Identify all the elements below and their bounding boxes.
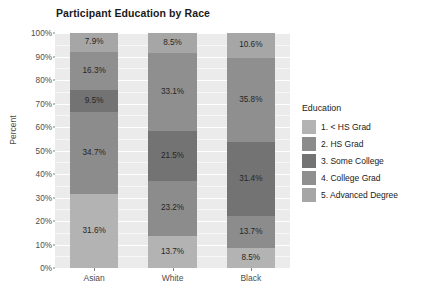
- x-axis-tick-label-asian: Asian: [84, 273, 105, 283]
- legend-item-label: 5. Advanced Degree: [321, 190, 398, 200]
- bar-segment-label: 31.4%: [239, 175, 262, 183]
- legend: Education 1. < HS Grad2. HS Grad3. Some …: [302, 103, 398, 203]
- legend-swatch-icon: [302, 154, 316, 168]
- legend-item[interactable]: 1. < HS Grad: [302, 118, 398, 135]
- chart-container: Participant Education by Race Percent 0%…: [0, 0, 428, 306]
- bar-segment-label: 13.7%: [161, 248, 184, 256]
- legend-item[interactable]: 4. College Grad: [302, 169, 398, 186]
- legend-item[interactable]: 2. HS Grad: [302, 135, 398, 152]
- bar-segment-label: 8.5%: [163, 39, 182, 47]
- bar-segment[interactable]: 8.5%: [227, 248, 276, 268]
- x-axis-tick-mark: [173, 268, 174, 271]
- plot-panel: 31.6%34.7%9.5%16.3%7.9%13.7%23.2%21.5%33…: [55, 33, 290, 268]
- y-axis-tick-labels: 0%10%20%30%40%50%60%70%80%90%100%: [22, 33, 52, 268]
- legend-item-label: 3. Some College: [321, 156, 384, 166]
- bar-segment-label: 21.5%: [161, 152, 184, 160]
- legend-item[interactable]: 5. Advanced Degree: [302, 186, 398, 203]
- bar-segment[interactable]: 8.5%: [148, 33, 197, 53]
- legend-swatch-icon: [302, 171, 316, 185]
- y-axis-tick-label: 10%: [36, 240, 52, 249]
- bar-segment-label: 16.3%: [83, 67, 106, 75]
- y-axis-tick-label: 90%: [36, 52, 52, 61]
- bar-segment-label: 10.6%: [239, 41, 262, 49]
- y-axis-tick-label: 70%: [36, 99, 52, 108]
- y-axis-tick-label: 60%: [36, 123, 52, 132]
- bar-group-black[interactable]: 8.5%13.7%31.4%35.8%10.6%: [227, 33, 276, 268]
- bar-segment-label: 23.2%: [161, 204, 184, 212]
- y-axis-tick-label: 40%: [36, 170, 52, 179]
- legend-title: Education: [302, 103, 398, 113]
- legend-item[interactable]: 3. Some College: [302, 152, 398, 169]
- x-axis-tick-label-white: White: [162, 273, 184, 283]
- y-axis-tick-label: 20%: [36, 217, 52, 226]
- chart-title: Participant Education by Race: [56, 7, 210, 19]
- x-axis-tick-mark: [251, 268, 252, 271]
- bar-segment[interactable]: 33.1%: [148, 53, 197, 131]
- y-axis-tick-label: 30%: [36, 193, 52, 202]
- x-axis-tick-label-black: Black: [240, 273, 261, 283]
- y-axis-tick-label: 100%: [31, 29, 52, 38]
- bar-segment[interactable]: 31.4%: [227, 142, 276, 216]
- legend-swatch-icon: [302, 188, 316, 202]
- bar-segment-label: 31.6%: [83, 227, 106, 235]
- y-axis-tick-label: 0%: [40, 264, 52, 273]
- bar-segment[interactable]: 9.5%: [70, 90, 119, 112]
- bar-segment-label: 7.9%: [85, 38, 104, 46]
- bar-segment-label: 8.5%: [241, 254, 260, 262]
- y-axis-tick-label: 50%: [36, 146, 52, 155]
- legend-swatch-icon: [302, 120, 316, 134]
- legend-items: 1. < HS Grad2. HS Grad3. Some College4. …: [302, 118, 398, 203]
- legend-item-label: 4. College Grad: [321, 173, 381, 183]
- bar-segment-label: 9.5%: [85, 97, 104, 105]
- bar-segment[interactable]: 13.7%: [148, 236, 197, 268]
- x-axis-tick-mark: [94, 268, 95, 271]
- legend-item-label: 2. HS Grad: [321, 139, 364, 149]
- bar-segment[interactable]: 34.7%: [70, 112, 119, 194]
- bar-segment[interactable]: 7.9%: [70, 33, 119, 52]
- legend-swatch-icon: [302, 137, 316, 151]
- bar-segment[interactable]: 23.2%: [148, 181, 197, 236]
- y-axis-title: Percent: [8, 100, 18, 160]
- y-axis-tick-label: 80%: [36, 76, 52, 85]
- bar-segment-label: 13.7%: [239, 228, 262, 236]
- bar-segment[interactable]: 21.5%: [148, 131, 197, 182]
- bar-segment-label: 34.7%: [83, 149, 106, 157]
- bar-segment-label: 35.8%: [239, 96, 262, 104]
- bar-group-asian[interactable]: 31.6%34.7%9.5%16.3%7.9%: [70, 33, 119, 268]
- legend-item-label: 1. < HS Grad: [321, 122, 371, 132]
- bar-segment[interactable]: 16.3%: [70, 52, 119, 90]
- bar-segment[interactable]: 31.6%: [70, 194, 119, 268]
- bar-segment-label: 33.1%: [161, 88, 184, 96]
- bar-group-white[interactable]: 13.7%23.2%21.5%33.1%8.5%: [148, 33, 197, 268]
- bar-segment[interactable]: 13.7%: [227, 216, 276, 248]
- x-axis: AsianWhiteBlack: [55, 268, 290, 294]
- bar-segment[interactable]: 35.8%: [227, 58, 276, 142]
- bar-segment[interactable]: 10.6%: [227, 33, 276, 58]
